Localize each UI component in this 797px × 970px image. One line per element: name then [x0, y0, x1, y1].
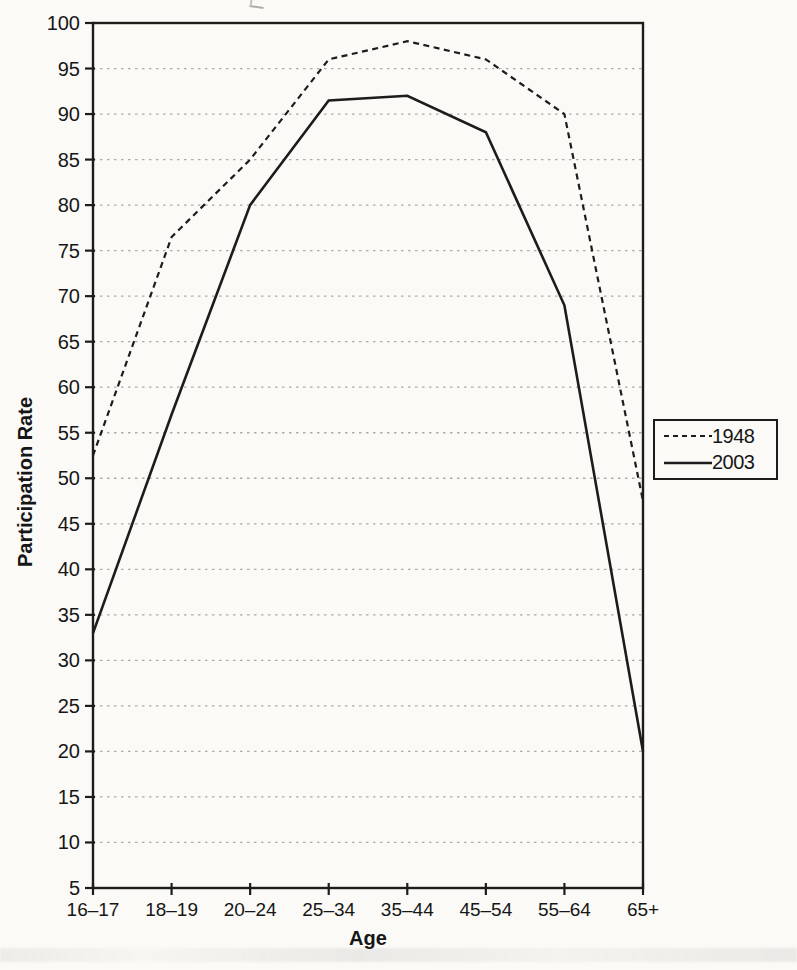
- scanned-chart-page: 5101520253035404550556065707580859095100…: [0, 0, 797, 970]
- x-category-label: 18–19: [145, 899, 198, 920]
- x-category-label: 35–44: [381, 899, 434, 920]
- x-category-label: 55–64: [538, 899, 591, 920]
- y-tick-label: 60: [58, 376, 80, 398]
- y-axis-title: Participation Rate: [14, 397, 37, 567]
- x-category-label: 20–24: [224, 899, 277, 920]
- y-tick-label: 95: [58, 58, 80, 80]
- y-tick-label: 85: [58, 149, 80, 171]
- y-tick-label: 40: [58, 558, 80, 580]
- legend-swatch-2003: [662, 460, 712, 466]
- x-category-label: 65+: [627, 899, 659, 920]
- legend-swatch-1948: [662, 433, 712, 439]
- y-tick-label: 65: [58, 331, 80, 353]
- y-tick-label: 100: [47, 12, 80, 34]
- y-tick-label: 30: [58, 649, 80, 671]
- participation-rate-chart: 5101520253035404550556065707580859095100…: [0, 0, 797, 970]
- y-tick-label: 25: [58, 695, 80, 717]
- legend-label-1948: 1948: [712, 425, 755, 448]
- y-tick-label: 80: [58, 194, 80, 216]
- legend-entry-2003: 2003: [662, 452, 776, 474]
- y-tick-label: 70: [58, 285, 80, 307]
- legend: 19482003: [653, 419, 778, 480]
- y-tick-label: 75: [58, 240, 80, 262]
- x-category-label: 25–34: [302, 899, 355, 920]
- legend-label-2003: 2003: [712, 451, 755, 474]
- plot-border: [93, 23, 643, 888]
- y-tick-label: 15: [58, 786, 80, 808]
- y-tick-label: 55: [58, 422, 80, 444]
- scan-artifact-band: [0, 948, 797, 962]
- y-tick-label: 5: [69, 877, 80, 899]
- y-tick-label: 35: [58, 604, 80, 626]
- y-tick-label: 50: [58, 467, 80, 489]
- y-tick-label: 90: [58, 103, 80, 125]
- series-line-2003: [93, 96, 643, 752]
- y-tick-label: 10: [58, 831, 80, 853]
- y-tick-label: 45: [58, 513, 80, 535]
- y-tick-label: 20: [58, 740, 80, 762]
- x-category-label: 45–54: [459, 899, 512, 920]
- legend-entry-1948: 1948: [662, 425, 776, 447]
- series-line-1948: [93, 41, 643, 501]
- x-axis-title: Age: [349, 927, 387, 950]
- x-category-label: 16–17: [67, 899, 120, 920]
